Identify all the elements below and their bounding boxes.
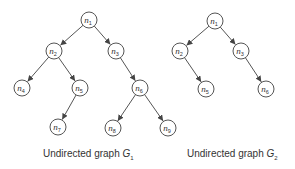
node-n2: n2 — [172, 43, 188, 59]
graph-g1: n1n2n3n4n5n6n7n8n9 — [14, 12, 176, 136]
edge-n3-n6 — [245, 58, 261, 82]
caption-g1: Undirected graph G1 — [43, 148, 134, 161]
node-n5: n5 — [198, 81, 214, 97]
edge-n1-n3 — [220, 27, 235, 45]
edge-n1-n2 — [60, 25, 83, 45]
node-n7: n7 — [50, 119, 66, 135]
edge-n1-n3 — [94, 26, 110, 45]
node-n6: n6 — [258, 81, 274, 97]
node-n6: n6 — [132, 80, 148, 96]
node-n3: n3 — [108, 43, 124, 59]
edge-n6-n9 — [145, 95, 164, 121]
node-n4: n4 — [14, 80, 30, 96]
caption-g2: Undirected graph G2 — [187, 148, 278, 161]
edge-n2-n5 — [59, 58, 76, 81]
caption-g1-subscript: 1 — [130, 155, 133, 161]
caption-g1-prefix: Undirected graph — [43, 148, 123, 159]
caption-g2-prefix: Undirected graph — [187, 148, 267, 159]
graph-g2: n1n2n3n5n6 — [172, 13, 274, 97]
node-n1: n1 — [207, 13, 223, 29]
graph-canvas: n1n2n3n4n5n6n7n8n9 n1n2n3n5n6 — [0, 0, 295, 169]
node-n5: n5 — [72, 80, 88, 96]
node-n8: n8 — [105, 120, 121, 136]
edge-n1-n2 — [186, 26, 208, 45]
node-n3: n3 — [233, 43, 249, 59]
edge-n6-n8 — [118, 95, 136, 121]
node-n1: n1 — [81, 12, 97, 28]
edge-n2-n5 — [185, 58, 202, 82]
node-n9: n9 — [160, 120, 176, 136]
edge-n5-n7 — [62, 95, 76, 120]
edge-n2-n4 — [28, 57, 49, 82]
edge-n3-n6 — [120, 58, 135, 81]
node-n2: n2 — [46, 43, 62, 59]
caption-g2-subscript: 2 — [274, 155, 277, 161]
